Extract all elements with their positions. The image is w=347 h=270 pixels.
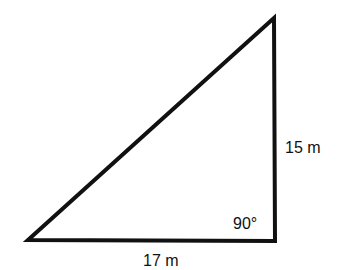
right-triangle-diagram (0, 0, 347, 270)
right-angle-label: 90° (233, 216, 257, 232)
horizontal-side-label: 17 m (143, 253, 179, 269)
vertical-side-label: 15 m (285, 140, 321, 156)
triangle-shape (28, 18, 275, 241)
